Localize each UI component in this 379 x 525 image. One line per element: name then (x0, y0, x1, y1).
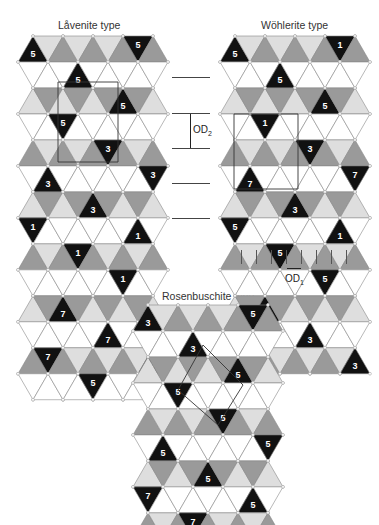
od1-tick (286, 250, 287, 264)
figure-caption-cropped (0, 514, 379, 525)
svg-text:7: 7 (60, 309, 65, 319)
svg-text:5: 5 (277, 75, 282, 85)
od2-label-text: OD (193, 124, 208, 135)
od2-label: OD2 (193, 124, 212, 137)
svg-text:1: 1 (337, 231, 342, 241)
svg-text:5: 5 (75, 75, 80, 85)
od2-reference-line (172, 77, 210, 78)
od2-reference-line (172, 183, 210, 184)
od1-tick (331, 250, 332, 264)
svg-text:5: 5 (135, 40, 140, 50)
svg-text:7: 7 (247, 179, 252, 189)
svg-text:3: 3 (150, 170, 155, 180)
svg-text:3: 3 (45, 179, 50, 189)
svg-text:7: 7 (352, 170, 357, 180)
od1-tick (346, 250, 347, 264)
svg-text:5: 5 (277, 248, 282, 258)
svg-text:3: 3 (90, 205, 95, 215)
od1-label-subscript: 1 (300, 279, 304, 286)
svg-text:3: 3 (307, 335, 312, 345)
svg-text:5: 5 (232, 49, 237, 59)
svg-text:7: 7 (45, 352, 50, 362)
od1-label: OD1 (285, 273, 304, 286)
svg-text:1: 1 (262, 118, 267, 128)
svg-text:7: 7 (145, 491, 150, 501)
svg-text:5: 5 (250, 500, 255, 510)
svg-text:5: 5 (250, 309, 255, 319)
svg-text:5: 5 (90, 378, 95, 388)
svg-text:3: 3 (145, 318, 150, 328)
svg-text:7: 7 (105, 335, 110, 345)
svg-text:5: 5 (232, 222, 237, 232)
od2-reference-line (172, 218, 210, 219)
svg-text:1: 1 (75, 248, 80, 258)
svg-text:5: 5 (160, 448, 165, 458)
svg-text:1: 1 (135, 231, 140, 241)
svg-text:3: 3 (190, 344, 195, 354)
od1-label-text: OD (285, 273, 300, 284)
svg-text:5: 5 (265, 439, 270, 449)
od2-arrow (190, 114, 191, 148)
od1-tick (241, 250, 242, 264)
svg-text:1: 1 (337, 40, 342, 50)
svg-text:5: 5 (322, 101, 327, 111)
od1-arrow (287, 268, 301, 269)
od2-reference-line (172, 148, 210, 149)
od1-tick (301, 250, 302, 264)
od1-tick (271, 250, 272, 264)
od1-tick (316, 250, 317, 264)
panel-title-lavenite: Låvenite type (58, 19, 120, 31)
svg-text:5: 5 (60, 118, 65, 128)
od1-tick (256, 250, 257, 264)
wohlerite-structure-diagram: 51551377351551373 (220, 36, 365, 251)
svg-text:3: 3 (292, 205, 297, 215)
svg-text:1: 1 (120, 274, 125, 284)
svg-text:3: 3 (352, 361, 357, 371)
svg-text:5: 5 (322, 274, 327, 284)
svg-text:3: 3 (307, 144, 312, 154)
rosenbuschite-structure-diagram: 353555555757577 (133, 305, 283, 510)
lavenite-structure-diagram: 555553333111177775 (18, 36, 158, 266)
svg-text:5: 5 (205, 474, 210, 484)
svg-text:1: 1 (30, 222, 35, 232)
svg-text:3: 3 (105, 144, 110, 154)
svg-text:5: 5 (30, 49, 35, 59)
od2-label-subscript: 2 (208, 130, 212, 137)
panel-title-wohlerite: Wöhlerite type (261, 19, 328, 31)
od2-reference-line (172, 113, 210, 114)
svg-text:5: 5 (120, 101, 125, 111)
